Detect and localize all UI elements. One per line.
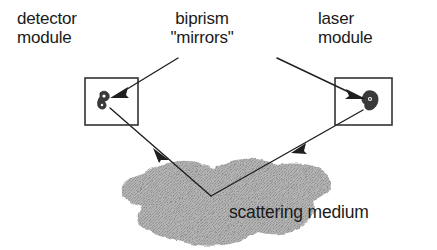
ray-arrowhead-into-medium (291, 143, 307, 154)
leader-line-to-laser (277, 58, 355, 95)
leader-arrowhead-detector (110, 87, 129, 98)
detector-module-box (85, 78, 138, 125)
detector-biprism-mirror-icon (98, 91, 110, 109)
biprism-leader-lines (119, 58, 355, 95)
label-biprism-mirrors: biprism "mirrors" (137, 9, 267, 47)
ray-arrowhead-to-detector (153, 148, 169, 163)
label-scattering-medium: scattering medium (229, 203, 369, 222)
leader-arrowhead-laser (345, 89, 366, 99)
biprism-scattering-diagram: detector module biprism "mirrors" laser … (0, 0, 437, 250)
laser-biprism-mirror-icon (362, 91, 378, 110)
label-detector-module: detector module (17, 9, 77, 47)
leader-line-to-detector (119, 58, 178, 94)
label-laser-module: laser module (318, 9, 373, 47)
